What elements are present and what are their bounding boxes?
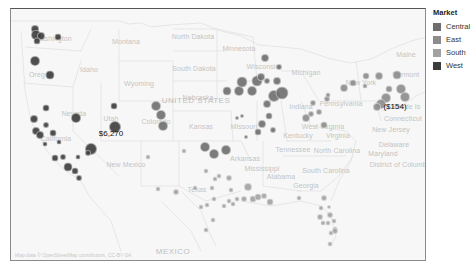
bubble-south[interactable]: [241, 196, 247, 202]
bubble-south[interactable]: [182, 149, 187, 154]
bubble-south[interactable]: [210, 186, 215, 191]
bubble-south[interactable]: [226, 175, 232, 181]
bubble-south[interactable]: [244, 183, 252, 191]
bubble-east[interactable]: [363, 84, 368, 89]
bubble-east[interactable]: [363, 73, 370, 80]
bubble-west[interactable]: [60, 154, 66, 160]
bubble-central[interactable]: [276, 64, 282, 70]
bubble-central[interactable]: [263, 100, 271, 108]
bubble-west[interactable]: [30, 56, 40, 66]
bubble-central[interactable]: [270, 127, 276, 133]
bubble-central[interactable]: [258, 120, 266, 128]
legend-item-east[interactable]: East: [433, 33, 476, 46]
bubble-west[interactable]: [76, 175, 82, 181]
bubble-central[interactable]: [247, 86, 257, 96]
bubble-south[interactable]: [204, 169, 209, 174]
bubble-west[interactable]: [43, 105, 50, 112]
bubble-west[interactable]: [85, 150, 91, 156]
state-label: North Dakota: [172, 33, 214, 40]
bubble-south[interactable]: [199, 205, 204, 210]
bubble-south[interactable]: [267, 199, 274, 206]
bubble-west[interactable]: [46, 71, 55, 80]
bubble-central[interactable]: [276, 87, 289, 100]
bubble-south[interactable]: [326, 221, 331, 226]
bubble-south[interactable]: [211, 218, 216, 223]
bubble-south[interactable]: [297, 196, 302, 201]
bubble-south[interactable]: [205, 203, 210, 208]
bubble-central[interactable]: [264, 78, 270, 84]
bubble-east[interactable]: [308, 111, 314, 117]
bubble-west[interactable]: [36, 131, 44, 139]
bubble-central[interactable]: [237, 77, 248, 88]
bubble-south[interactable]: [332, 219, 337, 224]
bubble-east[interactable]: [310, 100, 316, 106]
bubble-south[interactable]: [222, 204, 227, 209]
bubble-south[interactable]: [231, 202, 236, 207]
bubble-west[interactable]: [72, 168, 79, 175]
bubble-west[interactable]: [52, 155, 59, 162]
bubble-central[interactable]: [156, 110, 166, 120]
bubble-central[interactable]: [158, 121, 168, 131]
bubble-south[interactable]: [327, 205, 331, 209]
bubble-south[interactable]: [146, 155, 151, 160]
legend-label: Central: [446, 22, 470, 31]
bubble-west[interactable]: [55, 34, 62, 41]
bubble-east[interactable]: [400, 92, 410, 102]
bubble-south[interactable]: [173, 189, 179, 195]
bubble-west[interactable]: [57, 140, 62, 145]
bubble-central[interactable]: [261, 54, 269, 62]
bubble-central[interactable]: [240, 114, 244, 118]
bubble-east[interactable]: [375, 72, 383, 80]
bubble-west[interactable]: [30, 115, 38, 123]
legend-item-south[interactable]: South: [433, 46, 476, 59]
bubble-east[interactable]: [321, 122, 328, 129]
bubble-south[interactable]: [156, 187, 161, 192]
bubble-south[interactable]: [212, 197, 217, 202]
bubble-west[interactable]: [43, 142, 48, 147]
legend-item-central[interactable]: Central: [433, 20, 476, 33]
bubble-central[interactable]: [209, 149, 219, 159]
map-frame[interactable]: WashingtonOregonIdahoMontanaWyomingNevad…: [10, 8, 426, 261]
bubble-east[interactable]: [393, 71, 402, 80]
bubble-west[interactable]: [76, 155, 81, 160]
bubble-south[interactable]: [261, 193, 267, 199]
bubble-south[interactable]: [193, 186, 198, 191]
bubble-central[interactable]: [221, 145, 231, 155]
bubble-central[interactable]: [223, 87, 232, 96]
bubble-central[interactable]: [234, 86, 244, 96]
bubble-south[interactable]: [332, 228, 338, 234]
bubble-south[interactable]: [319, 206, 324, 211]
bubble-east[interactable]: [386, 86, 393, 93]
bubble-west[interactable]: [34, 38, 41, 45]
bubble-east[interactable]: [340, 84, 348, 92]
bubble-central[interactable]: [200, 142, 210, 152]
bubble-south[interactable]: [321, 195, 327, 201]
bubble-south[interactable]: [217, 174, 222, 179]
bubble-west[interactable]: [111, 103, 118, 110]
bubble-central[interactable]: [266, 113, 273, 120]
bubble-south[interactable]: [204, 228, 209, 233]
bubble-east[interactable]: [350, 80, 357, 87]
bubble-central[interactable]: [244, 135, 248, 139]
bubble-west[interactable]: [71, 113, 81, 123]
state-label: North Carolina: [314, 147, 361, 154]
bubble-west[interactable]: [50, 130, 57, 137]
bubble-south[interactable]: [328, 242, 333, 247]
bubble-east[interactable]: [373, 103, 381, 111]
bubble-central[interactable]: [273, 77, 281, 85]
legend-item-west[interactable]: West: [433, 59, 476, 72]
bubble-east[interactable]: [316, 109, 322, 115]
state-label: Montana: [112, 38, 140, 45]
bubble-south[interactable]: [229, 188, 234, 193]
map-attribution[interactable]: Map data © OpenStreetMap contributors, C…: [15, 252, 131, 258]
bubble-central[interactable]: [235, 116, 239, 120]
state-label: Maryland: [368, 150, 398, 157]
bubble-west[interactable]: [43, 122, 49, 128]
bubble-east[interactable]: [326, 93, 331, 98]
bubble-south[interactable]: [317, 214, 323, 220]
bubble-south[interactable]: [235, 197, 240, 202]
bubble-central[interactable]: [255, 129, 262, 136]
profit-label: ($154): [383, 102, 406, 111]
bubble-south[interactable]: [327, 212, 333, 218]
legend: Market Central East South West: [433, 8, 476, 72]
